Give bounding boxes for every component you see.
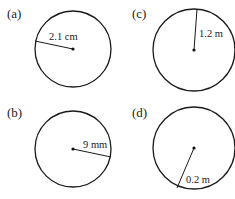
center-point-c <box>192 48 195 51</box>
circle-figure: (a) 2.1 cm (c) 1.2 m (b) 9 mm (d) 0.2 m <box>0 0 235 199</box>
panel-a: (a) 2.1 cm <box>7 6 111 87</box>
center-point-b <box>71 147 74 150</box>
part-label-d: (d) <box>132 105 147 120</box>
panel-b: (b) 9 mm <box>7 105 111 187</box>
panel-d: (d) 0.2 m <box>132 105 235 189</box>
part-label-a: (a) <box>7 6 21 21</box>
center-point-d <box>192 146 195 149</box>
radius-line-b <box>73 149 111 157</box>
center-point-a <box>71 47 74 50</box>
radius-label-c: 1.2 m <box>199 28 223 39</box>
radius-label-d: 0.2 m <box>186 174 210 185</box>
radius-line-c <box>194 9 197 50</box>
radius-label-a: 2.1 cm <box>49 31 78 42</box>
part-label-c: (c) <box>132 6 146 21</box>
panel-c: (c) 1.2 m <box>132 6 235 91</box>
part-label-b: (b) <box>7 105 22 120</box>
radius-label-b: 9 mm <box>83 139 107 150</box>
radius-line-a <box>35 41 73 49</box>
